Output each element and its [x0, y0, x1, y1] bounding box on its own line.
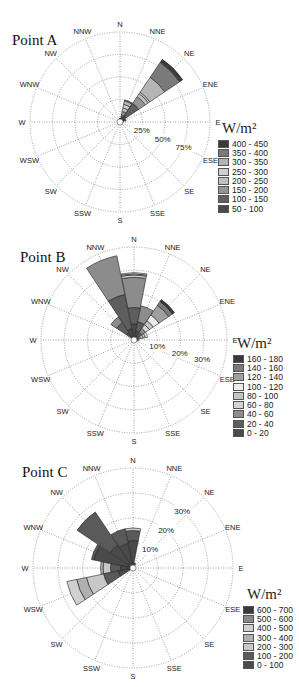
wind-rose-point-a: Point A NNNENEENEEESESESSESSSWSWWSWWWNWN… — [0, 0, 299, 225]
legend-swatch — [233, 429, 244, 437]
legend-swatch — [243, 606, 254, 614]
legend-swatch — [243, 652, 254, 660]
ring-label: 10% — [149, 342, 165, 351]
direction-label: ESE — [203, 156, 218, 165]
legend-item: 140 - 160 — [233, 363, 283, 372]
legend-swatch — [243, 643, 254, 651]
direction-label: N — [130, 456, 135, 465]
legend-swatch — [233, 373, 244, 381]
legend-swatch — [218, 140, 229, 148]
legend-swatch — [233, 364, 244, 372]
legend-item: 200 - 250 — [218, 176, 268, 185]
legend-item: 40 - 60 — [233, 410, 283, 419]
legend-item: 100 - 150 — [218, 195, 268, 204]
legend-item: 120 - 140 — [233, 373, 283, 382]
direction-label: W — [21, 564, 29, 573]
legend-item: 300 - 400 — [243, 633, 293, 642]
direction-label: S — [117, 216, 122, 225]
legend-swatch — [218, 158, 229, 166]
legend-swatch — [233, 420, 244, 428]
direction-label: SW — [57, 407, 70, 416]
legend-item: 100 - 120 — [233, 382, 283, 391]
wind-rose-point-b: Point B NNNENEENEEESESESSESSSWSWWSWWWNWN… — [0, 225, 299, 450]
direction-label: SSE — [167, 664, 182, 673]
legend-swatch — [243, 615, 254, 623]
direction-label: S — [130, 672, 135, 681]
legend-item: 50 - 100 — [218, 204, 268, 213]
legend-item: 400 - 500 — [243, 624, 293, 633]
legend-swatch — [218, 195, 229, 203]
direction-label: NNW — [86, 243, 105, 252]
legend-item: 0 - 20 — [233, 428, 283, 437]
legend-item: 150 - 200 — [218, 185, 268, 194]
direction-label: W — [29, 336, 37, 345]
legend-swatch — [233, 392, 244, 400]
legend-unit: W/m² — [247, 586, 293, 603]
legend-item: 600 - 700 — [243, 605, 293, 614]
ring-label: 50% — [155, 135, 171, 144]
ring-label: 10% — [142, 545, 158, 554]
legend-unit: W/m² — [237, 335, 283, 352]
direction-label: S — [131, 437, 136, 446]
legend-swatch — [218, 149, 229, 157]
legend-item: 200 - 300 — [243, 642, 293, 651]
direction-label: NNE — [166, 464, 182, 473]
ring-label: 20% — [158, 526, 174, 535]
legend: W/m² 600 - 700500 - 600400 - 500300 - 40… — [243, 586, 293, 670]
legend-swatch — [233, 355, 244, 363]
direction-label: ENE — [203, 80, 218, 89]
direction-label: SW — [45, 187, 58, 196]
legend-swatch — [233, 383, 244, 391]
direction-label: N — [117, 20, 122, 29]
ring-label: 75% — [176, 143, 192, 152]
direction-label: WSW — [31, 375, 51, 384]
legend-unit: W/m² — [222, 120, 268, 137]
wind-bar-segment — [125, 528, 140, 531]
direction-label: NW — [50, 488, 63, 497]
legend-item: 20 - 40 — [233, 419, 283, 428]
direction-label: NNW — [74, 27, 93, 36]
legend-swatch — [218, 205, 229, 213]
legend-swatch — [233, 410, 244, 418]
legend-item: 400 - 450 — [218, 139, 268, 148]
direction-label: WSW — [24, 605, 44, 614]
direction-label: NNE — [150, 27, 166, 36]
direction-label: SSE — [150, 209, 165, 218]
legend-item: 80 - 100 — [233, 391, 283, 400]
legend-swatch — [218, 168, 229, 176]
wind-rose-point-c: Point C NNNENEENEEESESESSESSSWSWWSWWWNWN… — [0, 450, 299, 687]
direction-label: NW — [56, 265, 69, 274]
direction-label: SSW — [87, 429, 105, 438]
legend-item: 100 - 200 — [243, 651, 293, 660]
direction-label: SSW — [83, 664, 101, 673]
direction-label: WNW — [23, 523, 43, 532]
legend: W/m² 160 - 180140 - 160120 - 140100 - 12… — [233, 335, 283, 438]
direction-label: E — [238, 564, 243, 573]
wind-bar-segment — [87, 256, 125, 302]
legend-swatch — [243, 634, 254, 642]
direction-label: NW — [44, 49, 57, 58]
direction-label: W — [18, 118, 26, 127]
ring-label: 30% — [174, 507, 190, 516]
legend-item: 0 - 100 — [243, 661, 293, 670]
legend-item: 160 - 180 — [233, 354, 283, 363]
wind-bar-segment — [126, 531, 140, 542]
ring-label: 20% — [172, 349, 188, 358]
direction-label: SSW — [74, 209, 92, 218]
direction-label: NE — [184, 49, 194, 58]
direction-label: NNW — [83, 464, 102, 473]
ring-label: 30% — [194, 355, 210, 364]
direction-label: NNE — [165, 243, 181, 252]
legend-swatch — [233, 401, 244, 409]
direction-label: ENE — [220, 297, 235, 306]
wind-bar-segment — [100, 562, 103, 574]
direction-label: SW — [51, 640, 64, 649]
ring-label: 25% — [134, 126, 150, 135]
direction-label: WNW — [20, 80, 40, 89]
legend-item: 250 - 300 — [218, 167, 268, 176]
legend-item: 500 - 600 — [243, 614, 293, 623]
legend-swatch — [243, 661, 254, 669]
legend-item: 350 - 400 — [218, 148, 268, 157]
direction-label: WNW — [31, 297, 51, 306]
legend: W/m² 400 - 450350 - 400300 - 350250 - 30… — [218, 120, 268, 213]
